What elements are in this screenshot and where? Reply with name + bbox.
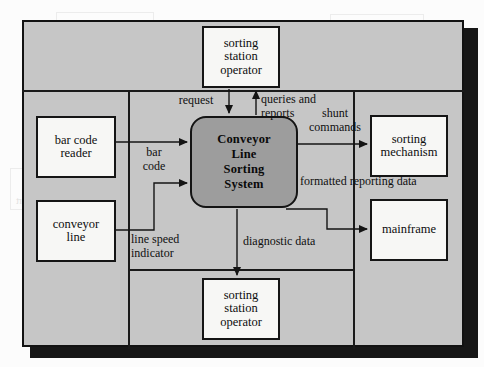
flow-label-bar-code: bar code [128, 146, 180, 173]
flow-label-shunt-commands: shunt commands [295, 107, 375, 134]
flow-label-formatted-reporting-data: formatted reporting data [300, 175, 417, 189]
flow-label-request: request [166, 94, 226, 108]
flow-label-line-speed-indicator: line speed indicator [131, 233, 179, 260]
figure-page: operator interface procedure diagnostic … [0, 0, 484, 367]
flow-label-diagnostic-data: diagnostic data [243, 235, 315, 249]
